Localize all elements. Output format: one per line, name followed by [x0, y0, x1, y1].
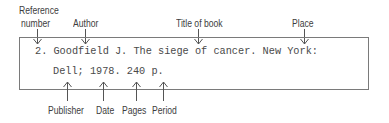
- label-reference: Reference: [19, 4, 59, 16]
- label-place: Place: [292, 17, 314, 29]
- arrow-up-icon: [159, 81, 168, 101]
- label-publisher: Publisher: [48, 104, 84, 116]
- arrow-up-icon: [99, 81, 108, 101]
- label-period: Period: [152, 104, 177, 116]
- label-author: Author: [73, 17, 98, 29]
- label-title-of-book: Title of book: [176, 17, 223, 29]
- label-pages: Pages: [122, 104, 146, 116]
- arrow-up-icon: [63, 81, 72, 101]
- citation-line-2: Dell; 1978. 240 p.: [53, 65, 164, 77]
- label-date: Date: [96, 104, 114, 116]
- citation-line-1: 2. Goodfield J. The siege of cancer. New…: [35, 45, 318, 57]
- arrow-up-icon: [132, 81, 141, 101]
- label-number: number: [21, 17, 50, 29]
